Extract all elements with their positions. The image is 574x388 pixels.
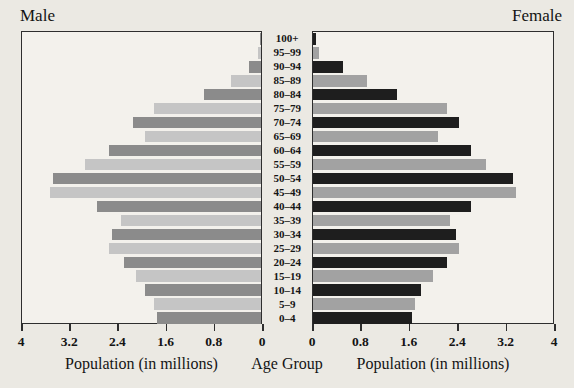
age-group-label-85-89: 85–89: [263, 75, 313, 86]
bar-male-0-4: [157, 312, 261, 323]
bar-female-10-14: [313, 284, 421, 295]
bar-male-65-69: [145, 131, 261, 142]
bar-female-25-29: [313, 243, 459, 254]
bar-female-45-49: [313, 187, 516, 198]
bar-female-60-64: [313, 145, 471, 156]
bar-male-45-49: [50, 187, 261, 198]
male-series-title: Male: [20, 7, 55, 24]
bar-female-90-94: [313, 61, 343, 72]
male-axis-tick-4: [21, 324, 23, 331]
age-group-label-80-84: 80–84: [263, 89, 313, 100]
bar-female-70-74: [313, 117, 459, 128]
male-axis-tick-3.2: [69, 324, 71, 331]
female-plot-area: [312, 31, 554, 324]
male-axis-tick-2.4: [117, 324, 119, 331]
age-group-label-10-14: 10–14: [263, 285, 313, 296]
male-plot-area: [21, 31, 262, 324]
age-group-label-45-49: 45–49: [263, 187, 313, 198]
male-axis-tick-label-0.8: 0.8: [199, 334, 229, 350]
age-group-label-35-39: 35–39: [263, 215, 313, 226]
age-group-label-5-9: 5–9: [263, 299, 313, 310]
male-axis-tick-label-4: 4: [6, 334, 36, 350]
bar-female-20-24: [313, 257, 447, 268]
bar-male-90-94: [249, 61, 261, 72]
age-group-label-30-34: 30–34: [263, 229, 313, 240]
bar-female-35-39: [313, 215, 450, 226]
age-group-label-0-4: 0–4: [263, 313, 313, 324]
male-axis-tick-label-0: 0: [247, 334, 277, 350]
age-group-label-65-69: 65–69: [263, 131, 313, 142]
female-axis-tick-0: [312, 324, 314, 331]
bar-female-80-84: [313, 89, 397, 100]
age-group-label-70-74: 70–74: [263, 117, 313, 128]
bar-female-65-69: [313, 131, 438, 142]
male-axis-title: Population (in millions): [21, 355, 262, 373]
female-axis-tick-label-0: 0: [297, 334, 327, 350]
bar-male-40-44: [97, 201, 261, 212]
bar-male-5-9: [154, 298, 261, 309]
bar-male-95-99: [258, 47, 261, 58]
male-axis-tick-1.6: [166, 324, 168, 331]
bar-male-70-74: [133, 117, 261, 128]
female-axis-tick-label-3.2: 3.2: [491, 334, 521, 350]
bar-female-0-4: [313, 312, 412, 323]
female-axis-tick-1.6: [409, 324, 411, 331]
female-axis-tick-label-2.4: 2.4: [442, 334, 472, 350]
male-axis-tick-0.8: [214, 324, 216, 331]
bar-male-85-89: [231, 75, 261, 86]
female-axis-tick-3.2: [506, 324, 508, 331]
bar-male-55-59: [85, 159, 261, 170]
female-axis-tick-label-4: 4: [539, 334, 569, 350]
age-group-label-15-19: 15–19: [263, 271, 313, 282]
age-group-label-100+: 100+: [263, 33, 313, 44]
bar-male-50-54: [53, 173, 261, 184]
population-pyramid-chart: Male Female 100+95–9990–9485–8980–8475–7…: [0, 0, 574, 388]
bar-male-60-64: [109, 145, 261, 156]
bar-male-100+: [260, 33, 261, 44]
age-group-axis: 100+95–9990–9485–8980–8475–7970–7465–696…: [263, 31, 313, 324]
bar-male-25-29: [109, 243, 261, 254]
female-axis-tick-label-1.6: 1.6: [394, 334, 424, 350]
female-axis-tick-label-0.8: 0.8: [345, 334, 375, 350]
male-axis-tick-0: [262, 324, 264, 331]
bar-female-75-79: [313, 103, 447, 114]
age-group-label-55-59: 55–59: [263, 159, 313, 170]
bar-female-95-99: [313, 47, 319, 58]
bar-female-100+: [313, 33, 316, 44]
female-series-title: Female: [512, 7, 562, 24]
bar-female-85-89: [313, 75, 367, 86]
bar-female-15-19: [313, 270, 433, 281]
bar-male-35-39: [121, 215, 261, 226]
age-group-label-50-54: 50–54: [263, 173, 313, 184]
bar-female-40-44: [313, 201, 471, 212]
bar-male-15-19: [136, 270, 261, 281]
bar-female-50-54: [313, 173, 513, 184]
bar-female-5-9: [313, 298, 415, 309]
female-axis-tick-0.8: [360, 324, 362, 331]
bar-male-10-14: [145, 284, 261, 295]
age-group-label-60-64: 60–64: [263, 145, 313, 156]
age-group-label-20-24: 20–24: [263, 257, 313, 268]
bar-female-55-59: [313, 159, 486, 170]
bar-male-75-79: [154, 103, 261, 114]
age-group-label-75-79: 75–79: [263, 103, 313, 114]
female-axis-tick-2.4: [457, 324, 459, 331]
age-group-label-95-99: 95–99: [263, 47, 313, 58]
male-axis-tick-label-3.2: 3.2: [54, 334, 84, 350]
male-axis-tick-label-1.6: 1.6: [151, 334, 181, 350]
age-group-label-25-29: 25–29: [263, 243, 313, 254]
female-axis-tick-4: [554, 324, 556, 331]
bar-male-80-84: [204, 89, 261, 100]
bar-male-30-34: [112, 229, 261, 240]
age-group-label-40-44: 40–44: [263, 201, 313, 212]
age-group-label-90-94: 90–94: [263, 61, 313, 72]
bar-female-30-34: [313, 229, 456, 240]
bar-male-20-24: [124, 257, 261, 268]
female-axis-title: Population (in millions): [312, 355, 554, 373]
male-axis-tick-label-2.4: 2.4: [102, 334, 132, 350]
